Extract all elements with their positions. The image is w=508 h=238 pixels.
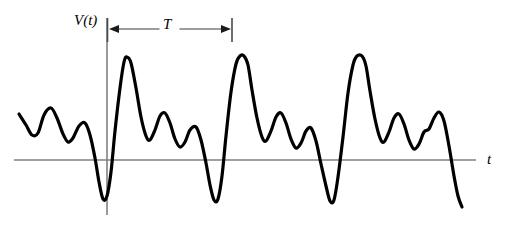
waveform-plot	[0, 0, 508, 238]
period-left-arrowhead	[109, 25, 119, 33]
waveform-figure: V(t) t T	[0, 0, 508, 238]
period-right-arrowhead	[221, 25, 231, 33]
signal-waveform-curve	[19, 55, 462, 207]
vertical-axis-label: V(t)	[74, 13, 97, 28]
period-label: T	[163, 17, 171, 32]
horizontal-axis-label: t	[487, 152, 491, 167]
